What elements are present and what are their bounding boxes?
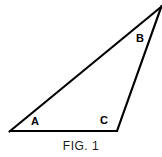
vertex-label-c: C: [100, 115, 108, 126]
figure-caption: FIG. 1: [63, 139, 99, 153]
vertex-label-a: A: [31, 116, 39, 127]
vertex-label-b: B: [136, 33, 144, 44]
triangle-diagram: [0, 0, 162, 157]
figure-container: A B C FIG. 1: [0, 0, 162, 157]
